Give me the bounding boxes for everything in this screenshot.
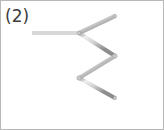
- right-lower-square: [115, 58, 158, 98]
- joint-right-center: [113, 54, 117, 58]
- stick-lt-lower-diagonal: [79, 78, 115, 98]
- joint-center: [77, 76, 81, 80]
- stick-lt-upper-diagonal: [79, 56, 115, 78]
- stick-ut-lower-diagonal: [79, 33, 115, 56]
- matchstick-diagram: [1, 1, 164, 130]
- left-upper-square: [32, 33, 79, 78]
- joint-left-square-top-right: [77, 31, 81, 35]
- matchstick-figure-container: (2): [0, 0, 164, 130]
- left-lower-square: [32, 78, 79, 121]
- upper-triangle: [79, 16, 115, 56]
- stick-ut-upper-diagonal: [79, 16, 115, 33]
- lower-triangle: [79, 56, 115, 98]
- joint-right-top: [113, 14, 116, 17]
- right-upper-square: [115, 16, 158, 56]
- joint-right-bottom: [113, 96, 116, 99]
